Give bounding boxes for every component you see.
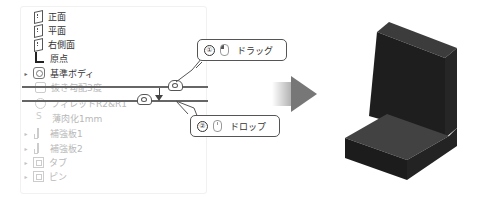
callout-tail [174, 58, 204, 88]
hand-cursor-icon [137, 94, 152, 105]
step-number: ② [197, 121, 208, 132]
tree-item-rib2[interactable]: ▸ 補強板2 [22, 141, 83, 155]
plane-icon [33, 25, 43, 36]
tree-item-right-plane[interactable]: 右側面 [33, 37, 75, 51]
tree-item-rib1[interactable]: ▸ 補強板1 [22, 126, 83, 140]
tree-item-label: 補強板1 [50, 127, 83, 140]
pin-icon [33, 171, 44, 182]
rib-icon [33, 127, 45, 139]
right-arrow-icon-fade [272, 82, 293, 106]
tree-item-front-plane[interactable]: 正面 [33, 9, 66, 23]
mouse-left-press-icon [220, 44, 229, 56]
tree-item-label: 右側面 [48, 38, 75, 51]
tree-item-pin[interactable]: ▸ ピン [22, 169, 67, 183]
tree-item-label: 補強板2 [50, 142, 83, 155]
tree-item-shell[interactable]: 薄肉化1mm [35, 111, 102, 125]
tree-item-label: 薄肉化1mm [52, 112, 102, 125]
mouse-release-icon [213, 120, 222, 132]
tree-item-top-plane[interactable]: 平面 [33, 23, 66, 37]
tree-item-label: タブ [49, 156, 67, 169]
l-bracket-model [345, 18, 475, 183]
tree-item-base-body[interactable]: ▸ 基準ボディ [22, 66, 94, 80]
drop-label: ドロップ [230, 120, 266, 133]
plane-icon [33, 11, 43, 22]
tree-item-origin[interactable]: 原点 [33, 51, 68, 65]
right-arrow-icon [291, 76, 317, 112]
tree-item-label: 原点 [50, 52, 68, 65]
expand-icon[interactable]: ▸ [22, 70, 30, 77]
step-number: ① [204, 45, 215, 56]
body-icon [33, 67, 45, 79]
drop-callout: ② ドロップ [190, 115, 280, 137]
expand-icon[interactable]: ▸ [22, 145, 30, 152]
rib-icon [33, 142, 45, 154]
tree-item-label: ピン [49, 170, 67, 183]
expand-icon[interactable]: ▸ [22, 173, 30, 180]
shell-icon [35, 112, 47, 124]
tree-item-fillet[interactable]: フィレットR2&R1 [35, 96, 127, 110]
tree-item-label: 正面 [48, 10, 66, 23]
tree-item-label: 基準ボディ [50, 67, 94, 80]
tab-icon [33, 157, 44, 168]
expand-icon[interactable]: ▸ [22, 130, 30, 137]
origin-icon [33, 52, 45, 64]
expand-icon[interactable]: ▸ [22, 159, 30, 166]
tree-item-label: 平面 [48, 24, 66, 37]
arrow-down-icon [155, 95, 163, 101]
drag-callout: ① ドラッグ [197, 39, 287, 61]
tree-item-label: フィレットR2&R1 [51, 97, 127, 110]
tree-item-tab[interactable]: ▸ タブ [22, 155, 67, 169]
drag-label: ドラッグ [237, 44, 273, 57]
plane-icon [33, 39, 43, 50]
